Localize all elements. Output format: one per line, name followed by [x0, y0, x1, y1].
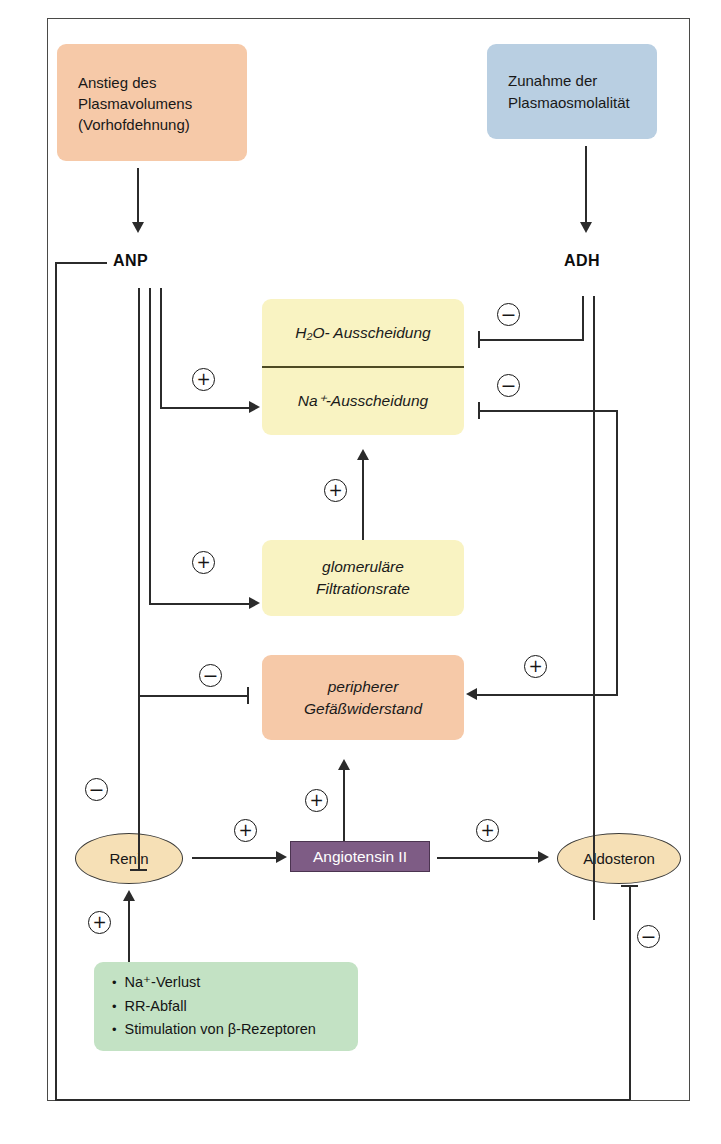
edge-gfr-to-ausscheidung: [362, 459, 364, 540]
plasmaosmolalitaet-line1: Zunahme der: [508, 70, 597, 91]
diagram-canvas: Anstieg des Plasmavolumens (Vorhofdehnun…: [0, 0, 721, 1144]
node-ausscheidung[interactable]: H₂O- Ausscheidung Na⁺-Ausscheidung: [262, 299, 464, 435]
plasmavolumen-line1: Anstieg des: [78, 72, 156, 93]
arrowhead-angiotensin-to-widerstand: [338, 759, 350, 770]
sign-renin-to-angiotensin: +: [234, 819, 257, 842]
sign-adh-to-widerstand: +: [524, 655, 547, 678]
sign-anp-to-renin: −: [85, 778, 108, 801]
arrowhead-angiotensin-to-aldosteron: [538, 851, 549, 863]
tbar-anp-to-renin: [130, 869, 147, 871]
node-angiotensin-ii[interactable]: Angiotensin II: [290, 841, 430, 872]
edge-renin-to-angiotensin: [192, 857, 277, 859]
tbar-adh-to-h2o: [478, 331, 480, 348]
sign-aldosteron-feedback: −: [637, 925, 660, 948]
widerstand-line1: peripherer: [328, 676, 399, 698]
tbar-anp-to-widerstand: [247, 687, 249, 704]
arrowhead-adh-to-widerstand: [466, 688, 477, 700]
ausscheidung-divider: [262, 366, 464, 368]
arrowhead-anp-to-gfr: [249, 597, 260, 609]
edge-feedback-to-anp: [55, 262, 107, 264]
ausscheidung-h2o: H₂O- Ausscheidung: [262, 299, 464, 367]
edge-ausloeser-to-renin: [128, 900, 130, 962]
edge-adh-to-widerstand: [477, 694, 618, 696]
edge-feedback-bottom: [55, 1099, 630, 1101]
sign-adh-to-h2o: −: [497, 303, 520, 326]
edge-aldosteron-feedback-down: [629, 885, 631, 1100]
sign-angiotensin-to-widerstand: +: [305, 789, 328, 812]
edge-anp-to-gfr: [149, 603, 250, 605]
plasmavolumen-line2: Plasmavolumens: [78, 93, 192, 114]
node-ausloeser-liste[interactable]: • Na⁺-Verlust • RR-Abfall • Stimulation …: [94, 962, 358, 1051]
anp-bus-line-2: [149, 288, 151, 604]
sign-anp-to-ausscheidung: +: [192, 368, 215, 391]
list-item: • RR-Abfall: [112, 995, 187, 1018]
arrowhead-gfr-to-ausscheidung: [357, 449, 369, 460]
widerstand-line2: Gefäßwiderstand: [304, 698, 422, 720]
ausloeser-item2: RR-Abfall: [125, 995, 187, 1018]
renin-label: Renin: [109, 848, 148, 869]
bullet-icon: •: [112, 1000, 117, 1013]
sign-gfr-to-ausscheidung: +: [324, 479, 347, 502]
sign-anp-to-gfr: +: [192, 551, 215, 574]
node-plasmavolumen[interactable]: Anstieg des Plasmavolumens (Vorhofdehnun…: [57, 44, 247, 161]
node-renin[interactable]: Renin: [75, 833, 183, 884]
adh-branch-riser-right: [616, 410, 618, 695]
node-plasmaosmolalitaet[interactable]: Zunahme der Plasmaosmolalität: [487, 44, 657, 139]
adh-bus-line-2: [593, 296, 595, 920]
sign-adh-to-na: −: [497, 374, 520, 397]
bullet-icon: •: [112, 976, 117, 989]
tbar-aldosteron-feedback: [621, 885, 638, 887]
node-gefaesswiderstand[interactable]: peripherer Gefäßwiderstand: [262, 655, 464, 740]
gfr-line1: glomeruläre: [322, 556, 404, 578]
arrowhead-anp-to-ausscheidung: [249, 401, 260, 413]
arrowhead-ausloeser-to-renin: [123, 890, 135, 901]
edge-anp-to-widerstand: [138, 695, 248, 697]
arrowhead-renin-to-angiotensin: [276, 851, 287, 863]
ausloeser-item1: Na⁺-Verlust: [125, 971, 201, 994]
anp-bus-line-1: [138, 288, 140, 870]
edge-angiotensin-to-aldosteron: [437, 857, 539, 859]
edge-adh-to-na: [478, 410, 617, 412]
bullet-icon: •: [112, 1023, 117, 1036]
edge-plasmaosmolalitaet-to-adh: [585, 146, 587, 224]
plasmavolumen-line3: (Vorhofdehnung): [78, 114, 190, 135]
edge-anp-to-ausscheidung: [160, 407, 250, 409]
node-adh[interactable]: ADH: [564, 252, 600, 270]
sign-angiotensin-to-aldosteron: +: [476, 819, 499, 842]
arrowhead-down-adh: [580, 222, 592, 233]
list-item: • Stimulation von β-Rezeptoren: [112, 1018, 316, 1041]
tbar-adh-to-na: [478, 402, 480, 419]
plasmaosmolalitaet-line2: Plasmaosmolalität: [508, 92, 630, 113]
edge-adh-to-h2o: [478, 339, 584, 341]
edge-plasmavolumen-to-anp: [137, 168, 139, 224]
sign-ausloeser-to-renin: +: [88, 911, 111, 934]
node-anp[interactable]: ANP: [113, 252, 148, 270]
ausloeser-item3: Stimulation von β-Rezeptoren: [125, 1018, 316, 1041]
arrowhead-down-anp: [132, 222, 144, 233]
node-aldosteron[interactable]: Aldosteron: [557, 833, 681, 884]
list-item: • Na⁺-Verlust: [112, 971, 200, 994]
node-gfr[interactable]: glomeruläre Filtrationsrate: [262, 540, 464, 616]
sign-anp-to-widerstand: −: [199, 664, 222, 687]
edge-angiotensin-to-widerstand: [343, 769, 345, 841]
gfr-line2: Filtrationsrate: [316, 578, 410, 600]
edge-feedback-riser-left: [55, 262, 57, 1100]
adh-bus-line-1: [582, 296, 584, 340]
ausscheidung-na: Na⁺-Ausscheidung: [262, 367, 464, 435]
angiotensin-label: Angiotensin II: [313, 846, 407, 868]
anp-bus-line-3: [160, 288, 162, 408]
